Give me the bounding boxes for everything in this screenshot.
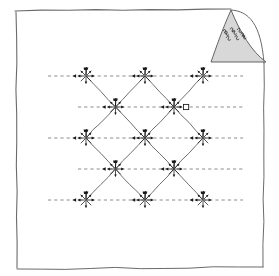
sketch-canvas <box>0 0 279 276</box>
node-open-square-marker <box>184 104 189 109</box>
diagram-svg <box>0 0 279 276</box>
